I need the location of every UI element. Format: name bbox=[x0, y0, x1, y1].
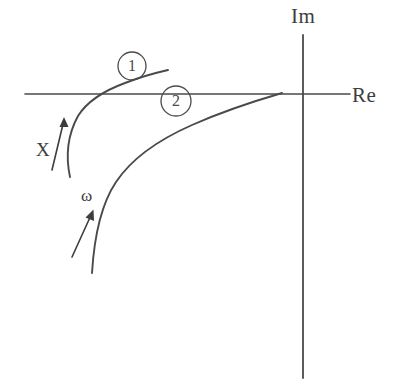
real-axis-label: Re bbox=[352, 83, 376, 108]
plot-canvas bbox=[0, 0, 393, 389]
nyquist-plot-figure: Im Re X ω 1 2 bbox=[0, 0, 393, 389]
curve-2-path bbox=[92, 93, 282, 273]
imaginary-axis-label: Im bbox=[291, 4, 315, 29]
magnitude-label: X bbox=[36, 139, 50, 161]
frequency-label: ω bbox=[81, 186, 92, 206]
curve-1-path bbox=[68, 70, 168, 177]
curve-1-marker-label: 1 bbox=[119, 53, 145, 79]
frequency-arrow bbox=[72, 210, 94, 258]
magnitude-arrow bbox=[52, 117, 69, 170]
curve-2-marker-label: 2 bbox=[163, 88, 189, 114]
